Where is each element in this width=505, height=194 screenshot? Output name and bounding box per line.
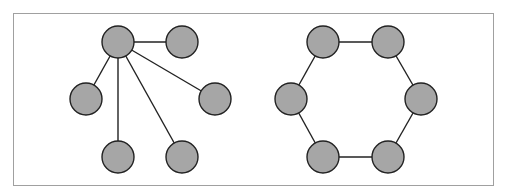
node — [307, 141, 339, 173]
edge — [118, 42, 215, 99]
node — [307, 26, 339, 58]
node — [372, 26, 404, 58]
node — [102, 26, 134, 58]
edge — [118, 42, 182, 157]
hexagon-cycle-graph — [275, 26, 437, 173]
node — [199, 83, 231, 115]
node — [405, 83, 437, 115]
node — [70, 83, 102, 115]
node — [166, 141, 198, 173]
graph-canvas — [0, 0, 505, 194]
node — [372, 141, 404, 173]
node — [102, 141, 134, 173]
star-graph — [70, 26, 231, 173]
node — [166, 26, 198, 58]
node — [275, 83, 307, 115]
